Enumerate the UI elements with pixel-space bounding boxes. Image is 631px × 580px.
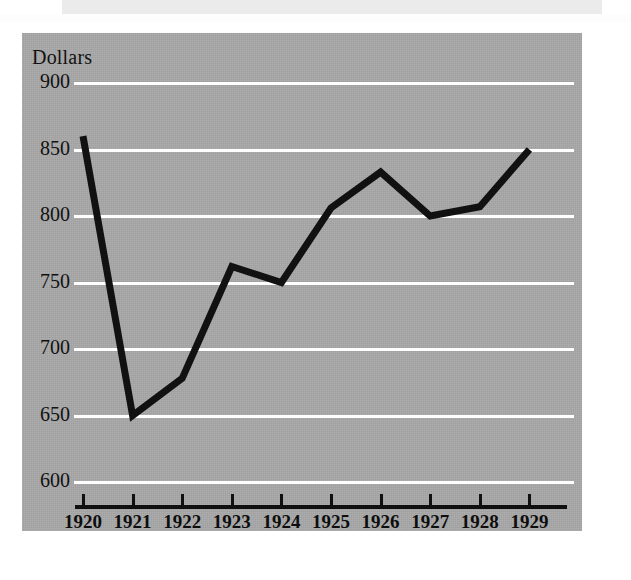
x-tick-label-1923: 1923 [213, 511, 251, 531]
x-tick-label-1929: 1929 [510, 511, 548, 531]
x-tick-1920 [82, 494, 85, 506]
x-tick-1929 [528, 494, 531, 506]
x-tick-label-1922: 1922 [163, 511, 201, 531]
x-tick-1925 [330, 494, 333, 506]
plot-area: Dollars 900850800750700650600 1920192119… [22, 33, 582, 531]
x-tick-label-1920: 1920 [64, 511, 102, 531]
x-tick-label-1926: 1926 [362, 511, 400, 531]
x-tick-1926 [380, 494, 383, 506]
x-tick-label-1928: 1928 [461, 511, 499, 531]
x-tick-1922 [181, 494, 184, 506]
scan-artifact-strip-secondary [0, 14, 631, 22]
x-tick-1921 [132, 494, 135, 506]
x-tick-1923 [231, 494, 234, 506]
series-line-chart [22, 33, 582, 531]
chart-figure: Dollars 900850800750700650600 1920192119… [22, 33, 582, 531]
x-tick-label-1927: 1927 [411, 511, 449, 531]
scan-artifact-strip [62, 0, 602, 14]
x-axis-line [75, 505, 567, 509]
x-tick-label-1921: 1921 [114, 511, 152, 531]
x-tick-1928 [479, 494, 482, 506]
page-canvas: Dollars 900850800750700650600 1920192119… [0, 0, 631, 580]
x-tick-1927 [429, 494, 432, 506]
x-tick-label-1925: 1925 [312, 511, 350, 531]
x-tick-label-1924: 1924 [262, 511, 300, 531]
x-tick-1924 [280, 494, 283, 506]
series-line-dollars [83, 136, 529, 415]
